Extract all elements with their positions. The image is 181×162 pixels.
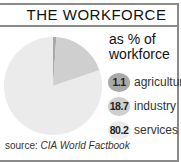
- subtitle-line-2: workforce: [109, 47, 170, 62]
- chart-subtitle: as % of workforce: [109, 32, 170, 62]
- legend-label: industry: [134, 99, 176, 113]
- chart-title: THE WORKFORCE: [13, 6, 167, 23]
- legend-label: agriculture: [134, 75, 181, 89]
- value-badge: 80.2: [108, 121, 130, 140]
- source-name: CIA World Factbook: [41, 140, 130, 151]
- value-badge: 18.7: [108, 97, 130, 116]
- title-bar: THE WORKFORCE: [0, 3, 179, 27]
- pie-chart: [3, 36, 103, 136]
- legend-item-industry: 18.7 industry: [108, 94, 181, 118]
- value-badge: 1.1: [108, 73, 130, 92]
- subtitle-line-1: as % of: [109, 32, 170, 47]
- legend-label: services: [134, 123, 178, 137]
- legend-item-agriculture: 1.1 agriculture: [108, 70, 181, 94]
- source-note: source: CIA World Factbook: [5, 140, 130, 151]
- legend: 1.1 agriculture 18.7 industry 80.2 servi…: [108, 70, 181, 142]
- source-prefix: source:: [5, 140, 38, 151]
- legend-item-services: 80.2 services: [108, 118, 181, 142]
